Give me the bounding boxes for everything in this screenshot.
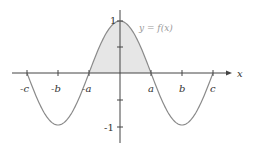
tick-label-c: c bbox=[210, 83, 216, 94]
tick-label-b: b bbox=[179, 83, 185, 94]
tick-label-a: a bbox=[148, 83, 154, 94]
curve-label: y = f(x) bbox=[138, 23, 173, 33]
x-axis-label: x bbox=[237, 68, 243, 79]
function-graph: -c -b -a a b c x 1 -1 y = f(x) bbox=[0, 0, 255, 150]
tick-label-neg-c: -c bbox=[20, 83, 29, 94]
x-axis-arrow-icon bbox=[226, 71, 232, 76]
y-tick-label-neg-1: -1 bbox=[104, 122, 114, 133]
tick-label-neg-b: -b bbox=[51, 83, 61, 94]
y-tick-label-1: 1 bbox=[110, 15, 116, 26]
graph-canvas: -c -b -a a b c x 1 -1 y = f(x) bbox=[0, 0, 255, 150]
tick-label-neg-a: -a bbox=[82, 83, 91, 94]
